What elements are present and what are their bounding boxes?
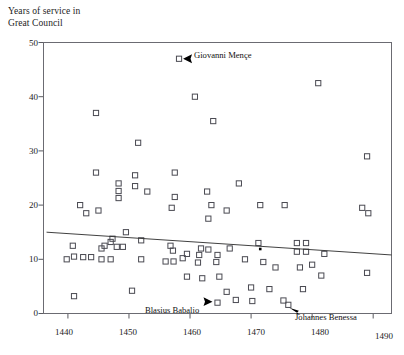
scatter-plot-figure: Years of service in Great Council 50 40 … (0, 0, 404, 355)
data-markers (64, 56, 371, 307)
plot-canvas (0, 0, 404, 355)
axis-ticks (39, 43, 374, 319)
plot-frame (44, 43, 392, 314)
trend-line (47, 232, 392, 255)
